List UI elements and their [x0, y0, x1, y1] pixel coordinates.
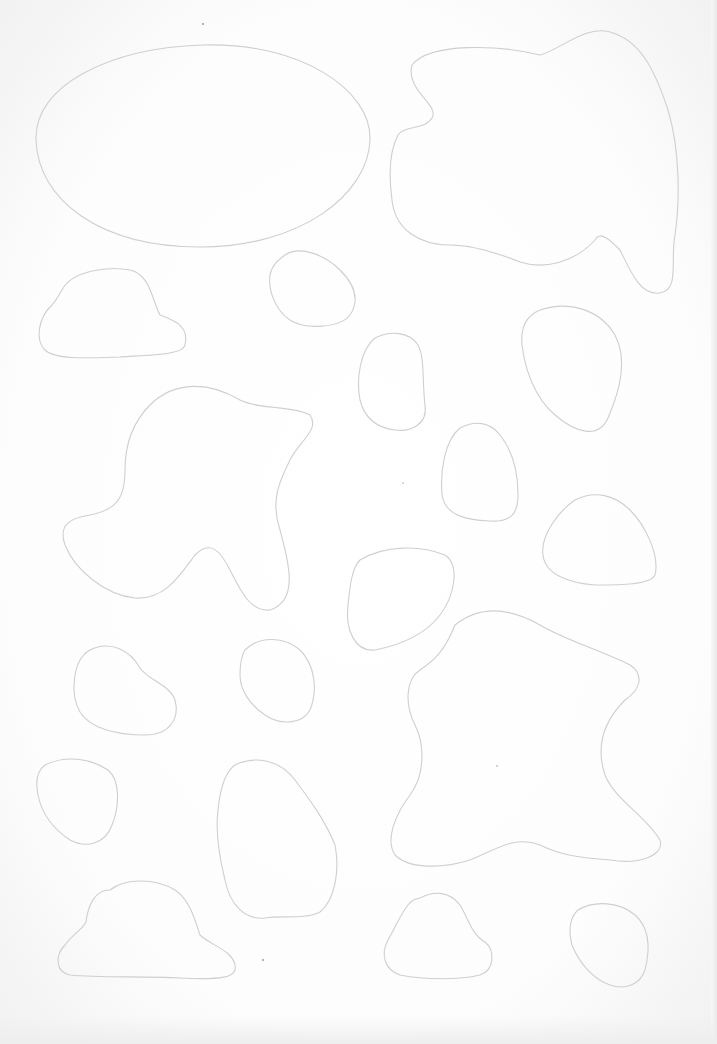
dust-speck: [262, 959, 264, 961]
ellipse-large-outline: [36, 45, 370, 247]
scan-edge-shadow-bottom: [0, 1016, 717, 1044]
pebble-lower-left-outline: [74, 646, 176, 735]
faint-blob-center-outline: [347, 548, 454, 650]
pebble-far-left-outline: [37, 759, 118, 844]
cloud-bottom-left-outline: [58, 881, 235, 979]
star-blob-large-outline: [391, 611, 661, 866]
rounded-triangle-right-outline: [522, 306, 622, 431]
blob-mid-left-outline: [63, 386, 313, 610]
dust-speck: [496, 765, 498, 767]
pebble-lower-mid-outline: [240, 639, 314, 721]
blob-top-right-outline: [390, 31, 678, 293]
rounded-rect-mid-outline: [359, 333, 426, 430]
cloud-left-outline: [39, 269, 186, 358]
bell-bottom-outline: [384, 893, 492, 978]
pebble-1-outline: [270, 251, 356, 326]
scanned-page: [0, 0, 717, 1044]
pebble-bottom-right-outline: [570, 904, 648, 987]
bell-mid-outline: [442, 423, 518, 521]
shape-outlines-canvas: [0, 0, 717, 1044]
dust-speck: [202, 23, 204, 25]
scan-edge-shadow-right: [711, 0, 717, 1044]
tall-blob-center-left-outline: [217, 760, 337, 918]
dust-speck: [402, 482, 403, 483]
mound-right-outline: [543, 495, 656, 585]
